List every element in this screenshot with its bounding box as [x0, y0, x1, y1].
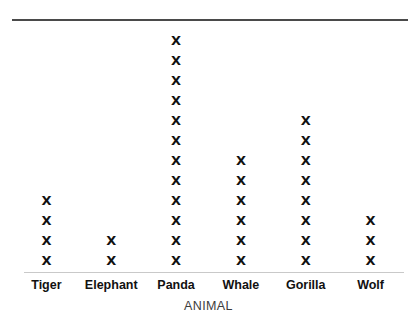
- x-axis-title: ANIMAL: [0, 299, 417, 313]
- mark-gorilla: X: [301, 151, 311, 171]
- mark-panda: X: [171, 31, 181, 51]
- mark-gorilla: X: [301, 131, 311, 151]
- mark-elephant: X: [106, 251, 116, 271]
- chart-title: Favorite Wild Animals: [0, 0, 417, 5]
- plot-area: XXXX XX XXXXXXXXXXXX XXXXXX XXXXXXXX XXX: [0, 21, 417, 271]
- column-whale: XXXXXX: [208, 21, 273, 271]
- mark-panda: X: [171, 191, 181, 211]
- column-panda: XXXXXXXXXXXX: [144, 21, 209, 271]
- mark-gorilla: X: [301, 111, 311, 131]
- mark-gorilla: X: [301, 231, 311, 251]
- mark-panda: X: [171, 51, 181, 71]
- category-label-gorilla: Gorilla: [273, 278, 338, 292]
- column-gorilla: XXXXXXXX: [273, 21, 338, 271]
- mark-gorilla: X: [301, 251, 311, 271]
- mark-panda: X: [171, 151, 181, 171]
- mark-elephant: X: [106, 231, 116, 251]
- mark-whale: X: [236, 231, 246, 251]
- mark-gorilla: X: [301, 191, 311, 211]
- column-wolf: XXX: [338, 21, 403, 271]
- category-labels-row: Tiger Elephant Panda Whale Gorilla Wolf: [0, 278, 417, 292]
- mark-gorilla: X: [301, 211, 311, 231]
- mark-panda: X: [171, 71, 181, 91]
- column-tiger: XXXX: [14, 21, 79, 271]
- mark-whale: X: [236, 191, 246, 211]
- mark-tiger: X: [41, 251, 51, 271]
- mark-panda: X: [171, 251, 181, 271]
- mark-panda: X: [171, 171, 181, 191]
- mark-whale: X: [236, 211, 246, 231]
- mark-panda: X: [171, 231, 181, 251]
- category-label-whale: Whale: [208, 278, 273, 292]
- pictograph-chart: Favorite Wild Animals XXXX XX XXXXXXXXXX…: [0, 0, 417, 322]
- mark-whale: X: [236, 171, 246, 191]
- category-label-panda: Panda: [144, 278, 209, 292]
- mark-panda: X: [171, 211, 181, 231]
- bottom-divider-rule: [24, 272, 404, 273]
- mark-whale: X: [236, 151, 246, 171]
- mark-gorilla: X: [301, 171, 311, 191]
- column-elephant: XX: [79, 21, 144, 271]
- mark-panda: X: [171, 91, 181, 111]
- mark-panda: X: [171, 131, 181, 151]
- mark-tiger: X: [41, 231, 51, 251]
- mark-wolf: X: [366, 251, 376, 271]
- mark-wolf: X: [366, 211, 376, 231]
- mark-tiger: X: [41, 191, 51, 211]
- category-label-tiger: Tiger: [14, 278, 79, 292]
- mark-whale: X: [236, 251, 246, 271]
- category-label-wolf: Wolf: [338, 278, 403, 292]
- category-label-elephant: Elephant: [79, 278, 144, 292]
- mark-wolf: X: [366, 231, 376, 251]
- mark-panda: X: [171, 111, 181, 131]
- mark-tiger: X: [41, 211, 51, 231]
